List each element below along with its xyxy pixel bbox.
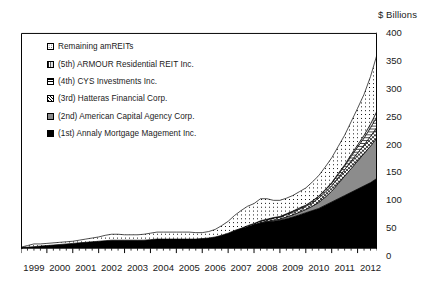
x-tick-label: 2002 [101, 262, 122, 273]
x-tick-label: 2005 [179, 262, 200, 273]
x-tick-label: 2011 [334, 262, 354, 273]
y-tick-label: 400 [386, 27, 402, 38]
legend-swatch-grid-icon [47, 61, 54, 68]
legend-label: (1st) Annaly Mortgage Magement Inc. [58, 129, 196, 138]
legend-swatch-hlines-icon [47, 78, 54, 85]
x-tick-label: 2008 [256, 262, 277, 273]
legend-item[interactable]: (2nd) American Capital Agency Corp. [47, 108, 196, 125]
legend-item[interactable]: (3rd) Hatteras Financial Corp. [47, 90, 196, 107]
x-tick-label: 2003 [127, 262, 148, 273]
legend-label: (2nd) American Capital Agency Corp. [58, 112, 194, 121]
y-tick-label: 350 [386, 54, 402, 65]
x-tick-label: 1999 [23, 262, 44, 273]
legend-item[interactable]: Remaining amREITs [47, 38, 196, 55]
legend-label: (4th) CYS Investments Inc. [58, 77, 157, 86]
x-tick-label: 2000 [49, 262, 70, 273]
x-tick-label: 2004 [153, 262, 174, 273]
y-tick-label: 200 [386, 138, 402, 149]
legend-swatch-solid-black-icon [47, 130, 54, 137]
x-tick-label: 2010 [308, 262, 329, 273]
legend-item[interactable]: (4th) CYS Investments Inc. [47, 73, 196, 90]
y-tick-label: 0 [386, 250, 391, 261]
x-tick-label: 2001 [75, 262, 96, 273]
legend-label: (3rd) Hatteras Financial Corp. [58, 94, 167, 103]
chart-legend: Remaining amREITs(5th) ARMOUR Residentia… [47, 38, 196, 142]
y-tick-label: 250 [386, 110, 402, 121]
x-tick-label: 2007 [230, 262, 251, 273]
y-tick-label: 150 [386, 166, 402, 177]
y-axis-title: $ Billions [378, 9, 417, 20]
legend-item[interactable]: (5th) ARMOUR Residential REIT Inc. [47, 55, 196, 72]
y-tick-label: 50 [386, 222, 397, 233]
y-tick-label: 300 [386, 82, 402, 93]
y-tick-label: 100 [386, 194, 402, 205]
legend-label: (5th) ARMOUR Residential REIT Inc. [58, 60, 194, 69]
legend-swatch-solid-gray-icon [47, 113, 54, 120]
x-tick-label: 2006 [205, 262, 226, 273]
legend-item[interactable]: (1st) Annaly Mortgage Magement Inc. [47, 125, 196, 142]
legend-label: Remaining amREITs [58, 42, 133, 51]
legend-swatch-dots-icon [47, 43, 54, 50]
x-tick-label: 2012 [360, 262, 381, 273]
chart-figure: $ Billions [0, 0, 425, 293]
x-tick-label: 2009 [282, 262, 303, 273]
legend-swatch-checker-icon [47, 95, 54, 102]
